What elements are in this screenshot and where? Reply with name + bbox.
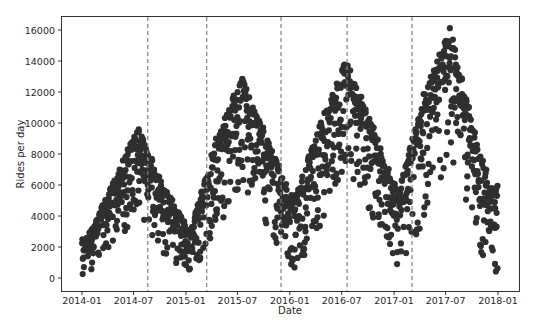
y-tick-label: 6000 [31, 180, 55, 191]
y-tick-label: 4000 [31, 211, 55, 222]
scatter-chart: 0200040006000800010000120001400016000 20… [0, 0, 533, 328]
y-axis-label: Rides per day [15, 120, 26, 189]
x-axis-ticks: 2014-012014-072015-012015-072016-012016-… [62, 292, 518, 307]
x-tick-label: 2015-07 [218, 295, 258, 306]
x-tick-label: 2015-01 [166, 295, 206, 306]
y-tick-label: 0 [49, 273, 55, 284]
data-points [79, 25, 501, 277]
x-tick-label: 2016-07 [322, 295, 362, 306]
x-tick-label: 2014-01 [62, 295, 102, 306]
x-axis-label: Date [278, 305, 302, 316]
y-tick-label: 10000 [25, 118, 55, 129]
x-tick-label: 2014-07 [114, 295, 154, 306]
x-tick-label: 2018-01 [478, 295, 518, 306]
y-tick-label: 14000 [25, 56, 55, 67]
y-tick-label: 8000 [31, 149, 55, 160]
y-tick-label: 12000 [25, 87, 55, 98]
x-tick-label: 2017-07 [426, 295, 466, 306]
y-tick-label: 2000 [31, 242, 55, 253]
x-tick-label: 2017-01 [374, 295, 414, 306]
y-axis-ticks: 0200040006000800010000120001400016000 [25, 25, 62, 284]
y-tick-label: 16000 [25, 25, 55, 36]
